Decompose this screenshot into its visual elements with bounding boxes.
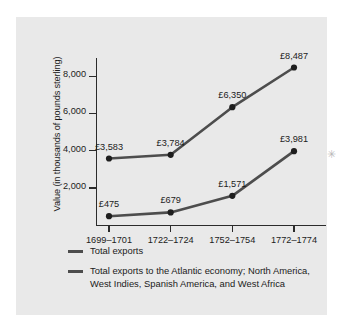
legend-item: Total exports [68,245,318,257]
series-marker [106,155,112,161]
data-point-label: £3,981 [280,134,308,144]
data-point-label: £475 [99,199,119,209]
series-marker [291,64,297,70]
data-point-label: £3,583 [95,142,123,152]
legend-item-label: Total exports [90,245,143,257]
series-marker [168,152,174,158]
data-point-label: £3,784 [157,138,185,148]
legend-swatch-icon [68,250,83,253]
y-axis-title: Value (in thousands of pounds sterling) [52,49,62,219]
legend-swatch-icon [68,270,83,273]
chart-legend: Total exports Total exports to the Atlan… [68,245,318,298]
data-point-label: £6,350 [218,90,246,100]
series-line [109,68,294,159]
page-margin-mark: ✳ [327,148,336,161]
series-marker [291,148,297,154]
series-marker [229,104,235,110]
data-point-label: £679 [160,195,180,205]
data-point-label: £8,487 [280,51,308,61]
series-marker [168,209,174,215]
series-marker [229,193,235,199]
x-axis-tick-label: 1699–1701 [86,235,132,245]
series-marker [106,213,112,219]
x-axis-tick-label: 1722–1724 [148,235,194,245]
legend-item: Total exports to the Atlantic economy; N… [68,265,318,290]
legend-item-label: Total exports to the Atlantic economy; N… [90,265,318,290]
data-point-label: £1,571 [218,179,246,189]
series-line [109,151,294,216]
x-axis-tick-label: 1772–1774 [271,235,317,245]
plot-area: 2,0004,0006,0008,000 1699–17011722–17241… [80,41,311,233]
chart-panel: Value (in thousands of pounds sterling) … [16,17,327,315]
x-axis-tick-label: 1752–1754 [209,235,255,245]
